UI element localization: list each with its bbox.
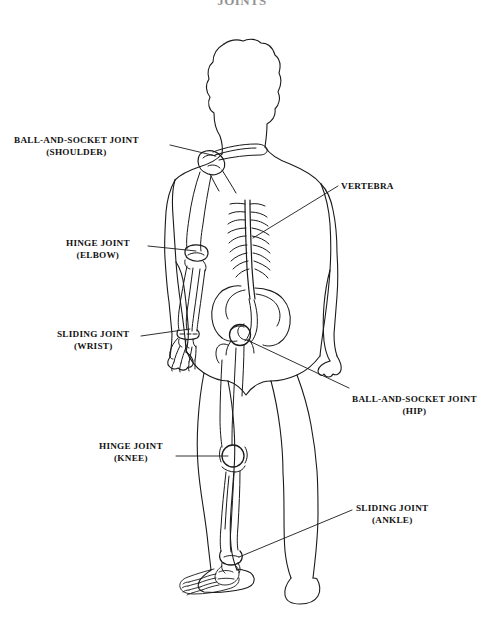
callout-label-elbow[interactable]: HINGE JOINT (ELBOW) xyxy=(66,237,130,261)
callout-label-hip[interactable]: BALL-AND-SOCKET JOINT (HIP) xyxy=(352,393,477,417)
clavicle-bone xyxy=(213,144,267,160)
callout-joint-type: SLIDING JOINT xyxy=(356,502,428,514)
callout-label-ankle[interactable]: SLIDING JOINT (ANKLE) xyxy=(356,502,428,526)
callout-joint-type: BALL-AND-SOCKET JOINT xyxy=(352,393,477,405)
callout-location: (WRIST) xyxy=(57,340,129,352)
callout-location: (KNEE) xyxy=(99,452,163,464)
callout-joint-type: HINGE JOINT xyxy=(66,237,130,249)
diagram-page: JOINTS xyxy=(0,0,484,629)
body-outline xyxy=(165,39,342,604)
elbow-joint xyxy=(185,245,208,271)
callout-label-shoulder[interactable]: BALL-AND-SOCKET JOINT (SHOULDER) xyxy=(14,134,139,158)
shoulder-joint xyxy=(198,151,236,193)
callout-joint-type: VERTEBRA xyxy=(341,180,394,192)
callout-location: (ELBOW) xyxy=(66,249,130,261)
pelvis-bone xyxy=(212,286,290,346)
foot-bones xyxy=(180,566,239,595)
leader-line-wrist xyxy=(141,329,190,336)
callout-label-vertebra[interactable]: VERTEBRA xyxy=(341,180,394,192)
hip-joint xyxy=(226,325,254,356)
lower-leg-bones xyxy=(220,471,240,552)
callout-label-knee[interactable]: HINGE JOINT (KNEE) xyxy=(99,440,163,464)
leader-line-vertebra xyxy=(253,186,338,238)
callout-location: (HIP) xyxy=(352,405,477,417)
vertebral-column xyxy=(228,200,270,299)
leader-line-ankle xyxy=(239,510,352,557)
humerus-bone xyxy=(187,172,211,251)
callout-label-wrist[interactable]: SLIDING JOINT (WRIST) xyxy=(57,328,129,352)
callout-location: (ANKLE) xyxy=(356,514,428,526)
leader-line-hip xyxy=(247,340,349,388)
skeleton-figure xyxy=(0,0,484,629)
callout-joint-type: SLIDING JOINT xyxy=(57,328,129,340)
knee-joint xyxy=(220,445,248,472)
hand-bones xyxy=(170,338,196,372)
callout-joint-type: BALL-AND-SOCKET JOINT xyxy=(14,134,139,146)
callout-location: (SHOULDER) xyxy=(14,146,139,158)
callout-joint-type: HINGE JOINT xyxy=(99,440,163,452)
femur-bone xyxy=(216,344,244,447)
